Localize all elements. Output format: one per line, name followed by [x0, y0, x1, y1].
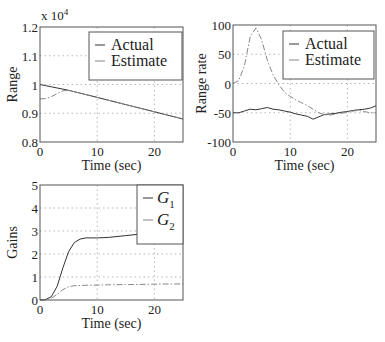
y-tick-label: 5	[32, 178, 39, 193]
y-axis-label: Gains	[5, 226, 20, 259]
x-tick-label: 10	[91, 302, 104, 317]
y-tick-label: 1	[32, 78, 39, 93]
y-axis-label: Range	[5, 67, 20, 103]
series-estimate-line	[40, 90, 183, 119]
x-axis-label: Time (sec)	[275, 158, 335, 174]
series-g2-line	[40, 284, 183, 300]
series-actual-line	[40, 85, 183, 120]
x-axis-label: Time (sec)	[82, 158, 142, 174]
legend-label: Actual	[111, 36, 154, 53]
figure: 010200.80.911.11.2Time (sec)Rangex 104Ac…	[0, 0, 385, 342]
y-tick-label: 0.9	[22, 106, 38, 121]
y-tick-label: 4	[32, 201, 39, 216]
y-tick-label: 0	[225, 77, 232, 92]
y-tick-label: 1.2	[22, 20, 38, 35]
y-tick-label: -50	[214, 106, 231, 121]
x-tick-label: 10	[91, 144, 104, 159]
y-tick-label: -100	[207, 135, 231, 150]
y-tick-label: 0	[32, 293, 39, 308]
y-axis-label: Range rate	[194, 53, 209, 113]
x-tick-label: 20	[148, 302, 161, 317]
x-axis-label: Time (sec)	[82, 316, 142, 332]
gains-plot: 01020012345Time (sec)GainsG1G2	[5, 178, 183, 332]
y-tick-label: 100	[212, 18, 232, 33]
range-rate-plot: 01020-100-50050100Time (sec)Range rateAc…	[194, 18, 376, 174]
x-tick-label: 20	[148, 144, 161, 159]
y-tick-label: 3	[32, 224, 39, 239]
y-tick-label: 50	[218, 47, 231, 62]
legend-label: Actual	[305, 35, 348, 52]
x-tick-label: 20	[341, 144, 354, 159]
range-plot: 010200.80.911.11.2Time (sec)Rangex 104Ac…	[5, 7, 183, 174]
legend-label: Estimate	[305, 51, 361, 68]
x-tick-label: 10	[284, 144, 297, 159]
y-tick-label: 0.8	[22, 135, 38, 150]
y-scale-multiplier: x 104	[41, 7, 69, 23]
y-tick-label: 2	[32, 247, 39, 262]
legend-label: Estimate	[111, 52, 167, 69]
y-tick-label: 1.1	[22, 49, 38, 64]
y-tick-label: 1	[32, 270, 39, 285]
